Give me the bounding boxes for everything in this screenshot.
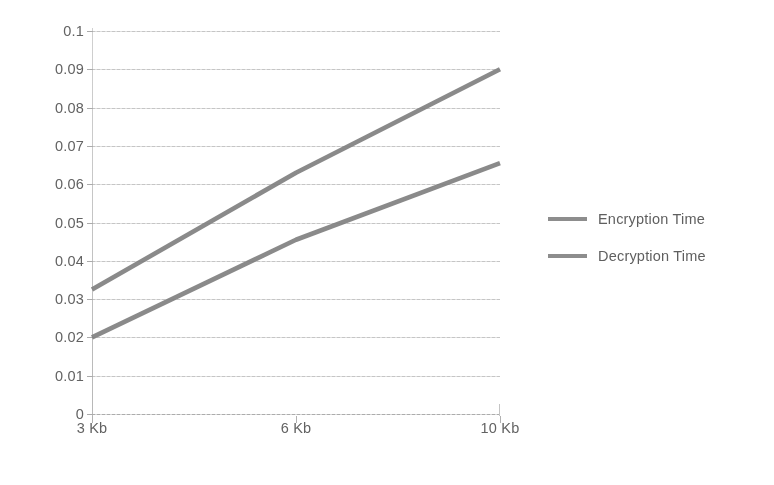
- y-axis-tick-label: 0.1: [63, 23, 84, 39]
- line-chart-figure: 0.10.090.080.070.060.050.040.030.020.010…: [0, 0, 774, 485]
- plot-area: [92, 31, 500, 414]
- chart-legend: Encryption Time Decryption Time: [548, 200, 763, 274]
- y-axis-tick-label: 0.04: [55, 253, 84, 269]
- x-axis-tick-label: 10 Kb: [481, 420, 520, 436]
- legend-label-decryption-time: Decryption Time: [598, 248, 706, 264]
- y-axis-tick-label: 0.07: [55, 138, 84, 154]
- y-axis-labels: 0.10.090.080.070.060.050.040.030.020.010: [0, 31, 84, 414]
- x-axis-tick-label: 6 Kb: [281, 420, 312, 436]
- series-line-encryption-time: [92, 69, 500, 289]
- legend-label-encryption-time: Encryption Time: [598, 211, 705, 227]
- gridline: [92, 414, 500, 415]
- y-axis-tick-label: 0.03: [55, 291, 84, 307]
- y-axis-tick-label: 0.05: [55, 215, 84, 231]
- y-axis-tick-label: 0.09: [55, 61, 84, 77]
- y-axis-tick-label: 0.06: [55, 176, 84, 192]
- legend-item-decryption-time: Decryption Time: [548, 237, 763, 274]
- y-axis-tick-mark: [87, 414, 93, 415]
- y-axis-tick-label: 0.02: [55, 329, 84, 345]
- y-axis-tick-label: 0.01: [55, 368, 84, 384]
- x-axis-tick-label: 3 Kb: [77, 420, 108, 436]
- plot-right-edge: [499, 404, 500, 416]
- series-lines: [92, 31, 500, 414]
- legend-swatch-encryption-time: [548, 217, 587, 221]
- legend-item-encryption-time: Encryption Time: [548, 200, 763, 237]
- legend-swatch-decryption-time: [548, 254, 587, 258]
- x-axis-labels: 3 Kb6 Kb10 Kb: [92, 420, 500, 450]
- y-axis-tick-label: 0.08: [55, 100, 84, 116]
- series-line-decryption-time: [92, 163, 500, 337]
